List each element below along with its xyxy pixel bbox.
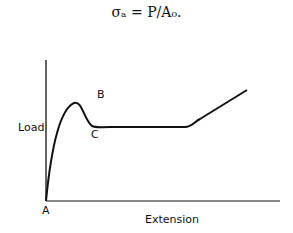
point-b-label: B xyxy=(97,88,105,101)
point-a-label: A xyxy=(42,204,50,217)
x-axis-label: Extension xyxy=(145,213,199,226)
point-c-label: C xyxy=(91,128,99,141)
y-axis-label: Load xyxy=(18,121,44,134)
load-extension-plot xyxy=(0,0,293,233)
